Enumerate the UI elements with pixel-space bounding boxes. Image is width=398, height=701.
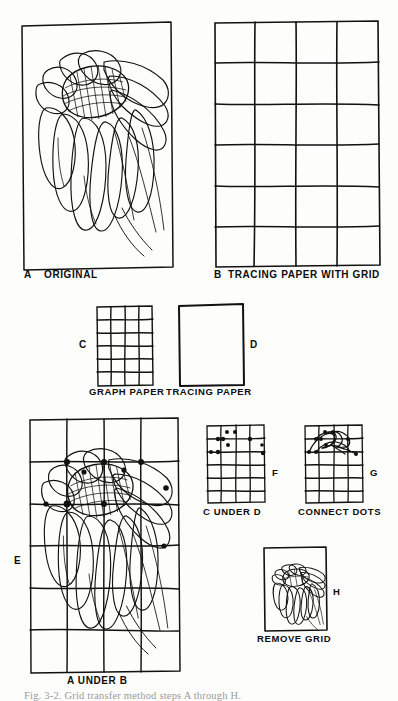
panel-d-letter: D xyxy=(250,339,257,350)
panel-a-caption: ORIGINAL xyxy=(44,269,98,280)
page-bottom-caption: Fig. 3-2. Grid transfer method steps A t… xyxy=(24,690,376,701)
panel-e-grid-overlay xyxy=(30,418,180,673)
panel-a-artwork xyxy=(18,18,176,272)
panel-b-tracing-grid xyxy=(212,18,382,270)
panel-h-remove-grid xyxy=(261,545,329,633)
panel-c-letter: C xyxy=(79,339,86,350)
panel-h-caption: REMOVE GRID xyxy=(257,633,331,644)
panel-d-sheet xyxy=(175,301,247,389)
panel-f-c-under-d xyxy=(205,423,267,505)
panel-b-letter: B xyxy=(214,269,221,280)
panel-a-letter: A xyxy=(24,269,31,280)
panel-f-caption: C UNDER D xyxy=(203,506,261,517)
panel-b-grid xyxy=(212,18,382,270)
panel-h-letter: H xyxy=(333,586,340,597)
panel-c-grid xyxy=(95,304,155,388)
panel-b-caption: TRACING PAPER WITH GRID xyxy=(228,269,380,280)
panel-e-letter: E xyxy=(14,555,21,566)
panel-c-caption: GRAPH PAPER xyxy=(89,386,165,397)
panel-g-connect-dots xyxy=(303,423,365,505)
panel-d-tracing-paper xyxy=(175,301,247,389)
panel-g-letter: G xyxy=(370,467,377,478)
panel-e-artwork xyxy=(26,414,182,676)
panel-g-caption: CONNECT DOTS xyxy=(298,506,381,517)
panel-e-caption: A UNDER B xyxy=(67,675,128,686)
panel-f-grid-dots xyxy=(205,423,267,505)
panel-c-graph-paper xyxy=(95,304,155,388)
panel-d-caption: TRACING PAPER xyxy=(166,386,252,397)
panel-a-original xyxy=(18,18,176,272)
panel-e-a-under-b xyxy=(26,414,182,676)
figure-page: A ORIGINAL B TRACING PAPER WITH GRID xyxy=(0,0,398,701)
panel-h-artwork xyxy=(261,545,329,633)
panel-g-grid-connected xyxy=(303,423,365,505)
panel-f-letter: F xyxy=(272,467,278,478)
